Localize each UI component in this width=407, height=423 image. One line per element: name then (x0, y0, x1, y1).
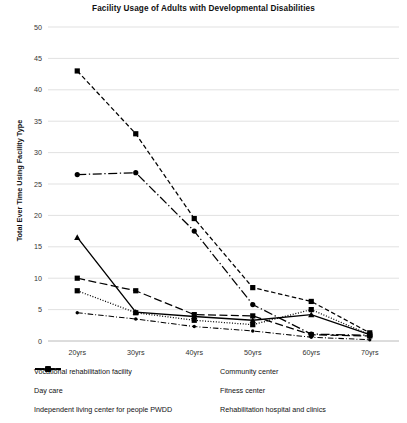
y-tick-label: 30 (34, 148, 42, 157)
y-tick-labels: 05101520253035404550 (34, 23, 42, 346)
data-point (192, 216, 197, 221)
data-point (367, 333, 372, 338)
series-layer (74, 68, 373, 341)
data-point (309, 331, 314, 336)
x-tick-labels: 20yrs30yrs40yrs50yrs60yrs70yrs (68, 348, 378, 357)
chart-legend: Vocational rehabilitation facilityCommun… (34, 363, 407, 418)
series-2 (74, 234, 373, 337)
y-tick-label: 10 (34, 274, 42, 283)
data-point (192, 229, 197, 234)
series-4 (75, 288, 373, 337)
y-tick-label: 20 (34, 211, 42, 220)
y-tick-label: 50 (34, 23, 42, 32)
legend-item-5[interactable]: Rehabilitation hospital and clinics (220, 401, 407, 418)
legend-item-1[interactable]: Community center (220, 363, 407, 380)
data-point (76, 311, 79, 314)
data-point (74, 234, 80, 240)
series-1 (75, 68, 373, 335)
x-tick-label: 30yrs (127, 348, 145, 357)
data-point (133, 170, 138, 175)
data-point (75, 172, 80, 177)
data-point (250, 313, 255, 318)
y-tick-label: 35 (34, 117, 42, 126)
x-tick-label: 50yrs (244, 348, 262, 357)
y-tick-label: 5 (38, 305, 42, 314)
y-tick-label: 0 (38, 337, 42, 346)
data-point (75, 288, 80, 293)
data-point (251, 329, 254, 332)
data-point (309, 307, 314, 312)
chart-plot-area: 05101520253035404550 20yrs30yrs40yrs50yr… (0, 0, 407, 423)
y-tick-label: 25 (34, 180, 42, 189)
data-point (133, 288, 138, 293)
data-point (133, 131, 138, 136)
data-point (133, 310, 138, 315)
gridlines (48, 27, 399, 341)
data-point (192, 318, 197, 323)
y-tick-label: 40 (34, 85, 42, 94)
legend-label: Independent living center for people PWD… (34, 405, 172, 414)
legend-label: Rehabilitation hospital and clinics (220, 405, 326, 414)
chart-container: Facility Usage of Adults with Developmen… (0, 0, 407, 423)
x-tick-label: 40yrs (185, 348, 203, 357)
data-point (75, 276, 80, 281)
legend-label: Fitness center (220, 386, 265, 395)
y-tick-label: 45 (34, 54, 42, 63)
data-point (193, 325, 196, 328)
data-point (192, 312, 197, 317)
data-point (250, 302, 255, 307)
y-tick-label: 15 (34, 242, 42, 251)
x-tick-label: 70yrs (361, 348, 379, 357)
data-point (250, 322, 255, 327)
legend-item-4[interactable]: Independent living center for people PWD… (34, 401, 220, 418)
data-point (250, 285, 255, 290)
legend-label: Community center (220, 367, 278, 376)
legend-swatch-icon (34, 363, 62, 375)
legend-item-2[interactable]: Day care (34, 382, 220, 399)
data-point (134, 317, 137, 320)
x-tick-label: 60yrs (302, 348, 320, 357)
x-tick-label: 20yrs (68, 348, 86, 357)
legend-label: Day care (34, 386, 63, 395)
legend-item-3[interactable]: Fitness center (220, 382, 407, 399)
data-point (75, 68, 80, 73)
data-point (309, 299, 314, 304)
